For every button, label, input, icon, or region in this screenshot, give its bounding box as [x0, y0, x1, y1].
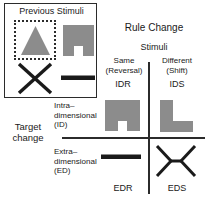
grid-vertical-divider — [148, 62, 150, 194]
rule-change-heading: Rule Change — [104, 22, 204, 34]
column-header-different-line2: (Shift) — [151, 66, 203, 76]
previous-triangle-shape — [20, 25, 51, 56]
stimuli-subheading: Stimuli — [104, 42, 204, 53]
cell-label-idr: IDR — [99, 79, 147, 90]
row-header-id-line3: (ID) — [54, 120, 106, 130]
idr-notched-square-shape — [105, 100, 140, 131]
row-header-intradimensional: Intra– dimensional (ID) — [54, 101, 106, 130]
column-header-same-line2: (Reversal) — [99, 66, 149, 76]
cell-label-eds: EDS — [152, 183, 202, 194]
ids-l-shape — [160, 100, 193, 132]
grid-horizontal-divider — [62, 137, 205, 139]
column-header-different: Different (Shift) — [151, 56, 203, 75]
column-header-different-line1: Different — [151, 56, 203, 66]
target-change-heading: Target change — [4, 121, 52, 143]
previous-stimuli-title: Previous Stimuli — [9, 6, 94, 17]
column-header-same: Same (Reversal) — [99, 56, 149, 75]
previous-x-cross-shape — [17, 62, 53, 95]
cell-label-ids: IDS — [152, 79, 202, 90]
target-change-line2: change — [4, 132, 52, 143]
previous-stimuli-panel: Previous Stimuli — [4, 3, 97, 98]
column-header-same-line1: Same — [99, 56, 149, 66]
row-header-id-line2: dimensional — [54, 111, 106, 121]
row-header-ed-line3: (ED) — [54, 166, 106, 176]
row-header-extradimensional: Extra– dimensional (ED) — [54, 147, 106, 176]
cell-label-edr: EDR — [99, 183, 147, 194]
row-header-ed-line2: dimensional — [54, 157, 106, 167]
previous-notched-square-shape — [63, 25, 94, 56]
edr-horizontal-bar-shape — [101, 153, 141, 161]
previous-horizontal-bar-shape — [61, 74, 95, 82]
target-change-line1: Target — [4, 121, 52, 132]
eds-bowtie-cross-shape — [155, 144, 197, 178]
stimulus-design-figure: Previous Stimuli Rul — [0, 0, 205, 201]
row-header-ed-line1: Extra– — [54, 147, 106, 157]
row-header-id-line1: Intra– — [54, 101, 106, 111]
